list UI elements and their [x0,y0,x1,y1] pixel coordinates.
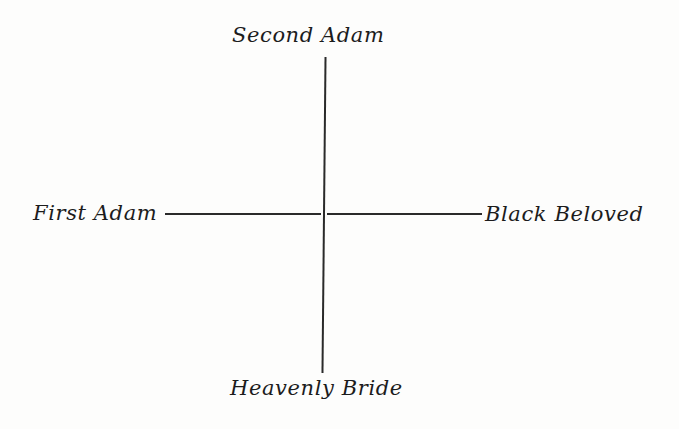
horizontal-axis-line-right [327,213,482,215]
vertical-axis-line [321,57,326,373]
label-black-beloved: Black Beloved [485,204,644,225]
label-heavenly-bride: Heavenly Bride [230,378,403,399]
label-first-adam: First Adam [33,203,157,224]
label-second-adam: Second Adam [232,25,385,46]
horizontal-axis-line-left [165,213,321,215]
